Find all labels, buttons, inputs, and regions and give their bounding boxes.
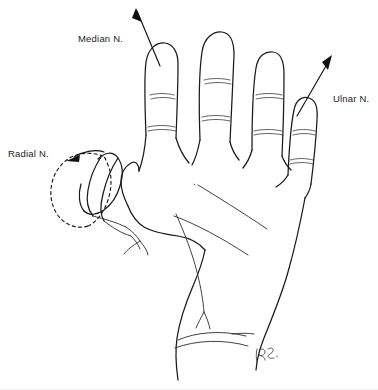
median-arrowhead-icon bbox=[132, 8, 142, 22]
index-finger bbox=[139, 43, 189, 171]
ring-crease-dip bbox=[256, 94, 282, 96]
wrist-crease-short bbox=[232, 333, 254, 334]
palm-outline bbox=[121, 162, 305, 380]
middle-crease-dip bbox=[204, 79, 230, 81]
thenar-crease bbox=[176, 214, 204, 312]
label-ulnar-nerve: Ulnar N. bbox=[333, 94, 369, 104]
ulnar-leader-line bbox=[297, 59, 330, 116]
palm-creases bbox=[174, 184, 267, 329]
thenar-crease-fork bbox=[126, 227, 140, 241]
thumb bbox=[79, 153, 148, 255]
artist-signature bbox=[256, 348, 277, 362]
little-crease-pip bbox=[290, 159, 313, 161]
ring-crease-pip bbox=[254, 130, 282, 132]
label-median-nerve: Median N. bbox=[78, 34, 123, 44]
distal-palmar-crease bbox=[198, 185, 267, 229]
hand-drawing bbox=[0, 0, 378, 390]
median-nerve-leader bbox=[132, 8, 160, 66]
ulnar-arrowhead-icon bbox=[322, 55, 332, 70]
hand-nerve-diagram: Median N. Ulnar N. Radial N. bbox=[0, 0, 378, 390]
middle-finger bbox=[192, 32, 239, 165]
index-crease-dip bbox=[150, 94, 174, 96]
ulnar-nerve-leader bbox=[297, 55, 332, 116]
wrist-creases bbox=[175, 333, 254, 348]
index-crease-pip bbox=[148, 126, 175, 128]
little-crease-dip bbox=[293, 130, 315, 132]
middle-crease-pip bbox=[202, 116, 230, 118]
ring-finger bbox=[243, 52, 291, 170]
wrist-crease-lower bbox=[175, 341, 248, 348]
label-radial-nerve: Radial N. bbox=[8, 149, 49, 159]
